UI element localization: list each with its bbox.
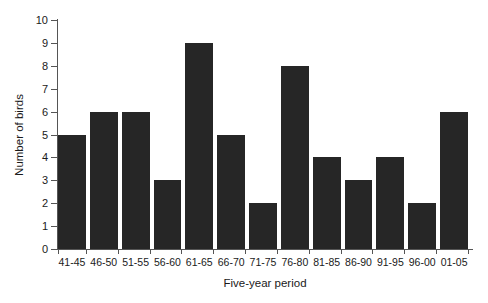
- y-tick-mark: [51, 249, 58, 250]
- x-tick-label: 01-05: [436, 256, 472, 269]
- x-tick-label: 46-50: [86, 256, 122, 269]
- y-tick-label: 0: [24, 243, 48, 255]
- bar: [345, 180, 373, 249]
- y-tick-mark: [51, 135, 58, 136]
- y-tick-label: 2: [24, 197, 48, 209]
- x-tick-label: 61-65: [181, 256, 217, 269]
- x-axis-line: [57, 249, 473, 250]
- bar-chart: Number of birds 012345678910 41-4546-505…: [0, 0, 488, 303]
- x-tick-mark: [436, 250, 437, 254]
- x-tick-label: 51-55: [118, 256, 154, 269]
- x-tick-mark: [404, 250, 405, 254]
- y-tick-label: 9: [24, 37, 48, 49]
- x-tick-mark: [372, 250, 373, 254]
- bar: [376, 157, 404, 249]
- y-tick-label: 8: [24, 60, 48, 72]
- y-tick-label: 6: [24, 106, 48, 118]
- x-axis-title: Five-year period: [58, 277, 472, 289]
- y-tick-mark: [51, 157, 58, 158]
- y-tick-label: 3: [24, 174, 48, 186]
- y-tick-mark: [51, 112, 58, 113]
- y-tick-label: 1: [24, 220, 48, 232]
- y-tick-mark: [51, 203, 58, 204]
- bar: [249, 203, 277, 249]
- bar: [313, 157, 341, 249]
- x-tick-mark: [309, 250, 310, 254]
- y-tick-mark: [51, 180, 58, 181]
- bar: [440, 112, 468, 249]
- y-tick-label: 7: [24, 83, 48, 95]
- bar: [281, 66, 309, 249]
- x-tick-mark: [468, 250, 469, 254]
- x-tick-label: 91-95: [372, 256, 408, 269]
- y-tick-mark: [51, 43, 58, 44]
- x-tick-mark: [245, 250, 246, 254]
- x-tick-label: 76-80: [277, 256, 313, 269]
- x-tick-mark: [86, 250, 87, 254]
- x-tick-label: 81-85: [309, 256, 345, 269]
- x-tick-mark: [118, 250, 119, 254]
- x-tick-label: 71-75: [245, 256, 281, 269]
- x-tick-label: 41-45: [54, 256, 90, 269]
- bar: [122, 112, 150, 249]
- y-tick-mark: [51, 66, 58, 67]
- y-tick-mark: [51, 226, 58, 227]
- y-tick-mark: [51, 20, 58, 21]
- bar: [58, 135, 86, 250]
- x-tick-mark: [341, 250, 342, 254]
- bars-layer: [58, 20, 472, 249]
- x-tick-label: 66-70: [213, 256, 249, 269]
- bar: [185, 43, 213, 249]
- y-tick-label: 4: [24, 151, 48, 163]
- x-tick-mark: [213, 250, 214, 254]
- bar: [154, 180, 182, 249]
- y-tick-label: 10: [24, 14, 48, 26]
- x-tick-label: 56-60: [150, 256, 186, 269]
- x-tick-mark: [277, 250, 278, 254]
- bar: [408, 203, 436, 249]
- x-tick-label: 86-90: [341, 256, 377, 269]
- y-tick-mark: [51, 89, 58, 90]
- x-tick-mark: [181, 250, 182, 254]
- y-tick-label: 5: [24, 129, 48, 141]
- x-tick-label: 96-00: [404, 256, 440, 269]
- bar: [90, 112, 118, 249]
- x-tick-mark: [58, 250, 59, 254]
- bar: [217, 135, 245, 250]
- x-tick-mark: [150, 250, 151, 254]
